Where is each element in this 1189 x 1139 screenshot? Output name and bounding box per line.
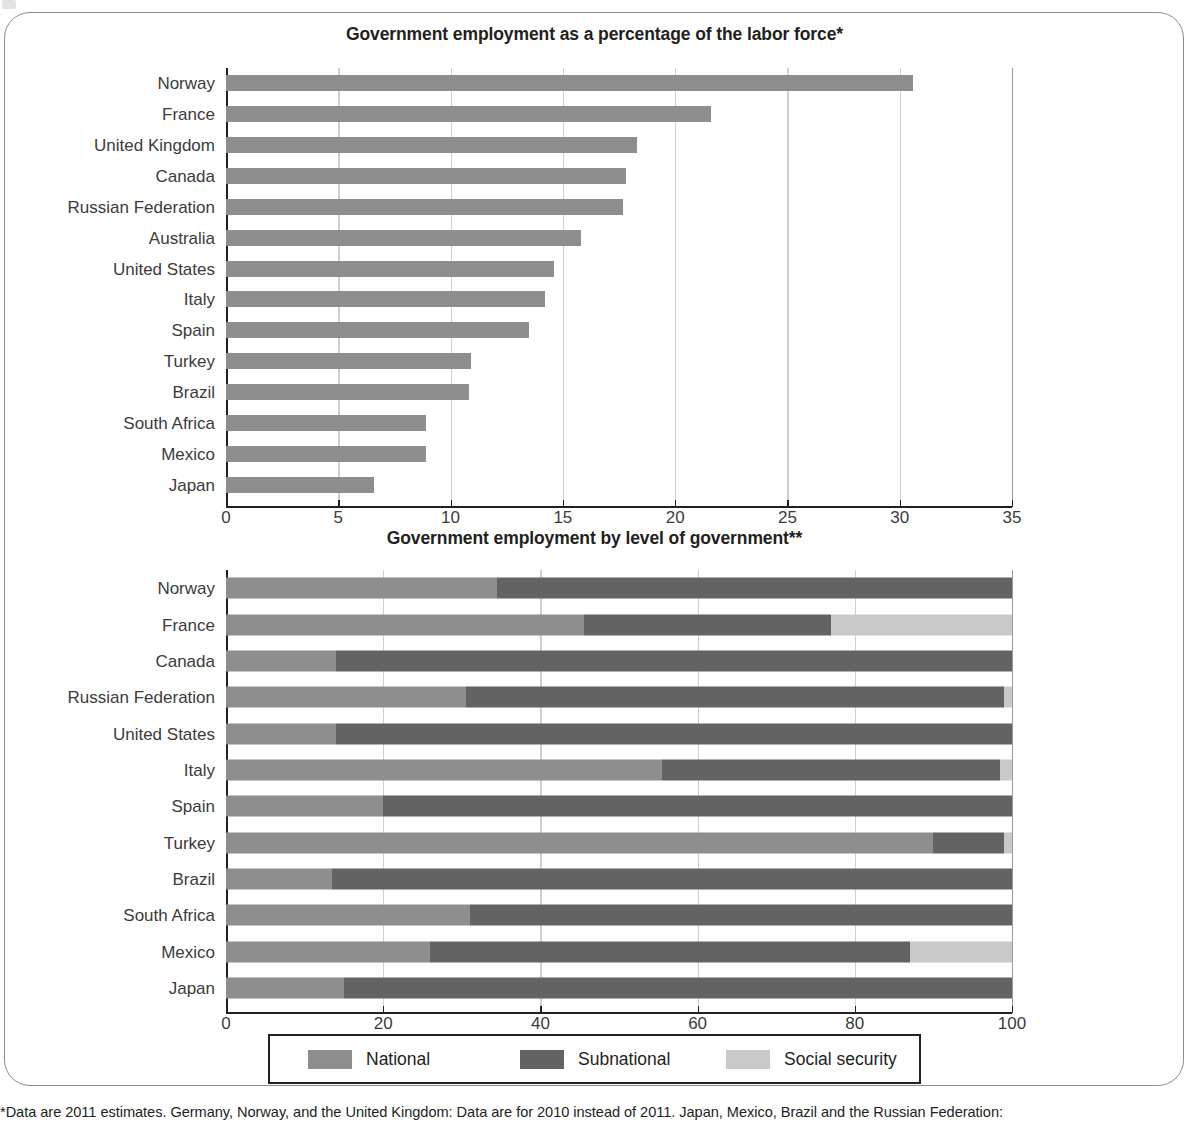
- y-axis-label: Japan: [169, 979, 215, 996]
- legend-item-subnational: Subnational: [520, 1049, 670, 1070]
- legend-label: National: [366, 1049, 430, 1070]
- y-axis-label: Canada: [155, 652, 215, 669]
- x-tick-mark: [1012, 500, 1013, 507]
- bar-segment-national: [226, 868, 332, 889]
- y-axis-label: Brazil: [172, 870, 215, 887]
- x-tick-label: 30: [890, 509, 909, 526]
- y-axis-label: United States: [113, 260, 215, 277]
- y-axis-label: Japan: [169, 476, 215, 493]
- bar-segment-national: [226, 941, 430, 962]
- legend-swatch-subnational: [520, 1050, 564, 1069]
- bar-segment-national: [226, 578, 497, 599]
- x-tick-label: 20: [374, 1015, 393, 1032]
- stacked-bar-row: [226, 650, 1012, 671]
- x-tick-label: 100: [998, 1015, 1026, 1032]
- bar-segment-subnational: [430, 941, 909, 962]
- x-tick-label: 35: [1003, 509, 1022, 526]
- bar-segment-subnational: [344, 977, 1012, 998]
- bar-segment-social-security: [1004, 687, 1012, 708]
- gridline: [451, 68, 452, 500]
- stacked-bar-row: [226, 723, 1012, 744]
- chart-legend: NationalSubnationalSocial security: [268, 1034, 921, 1084]
- bar-segment-subnational: [383, 796, 1012, 817]
- x-tick-label: 0: [221, 1015, 230, 1032]
- chart-2-x-axis: [226, 1012, 1012, 1014]
- bar: [226, 230, 581, 246]
- gridline: [338, 68, 339, 500]
- bar-segment-social-security: [910, 941, 1012, 962]
- x-tick-label: 5: [334, 509, 343, 526]
- legend-item-national: National: [308, 1049, 430, 1070]
- x-tick-label: 10: [441, 509, 460, 526]
- bar-segment-national: [226, 759, 662, 780]
- stacked-bar-row: [226, 796, 1012, 817]
- x-tick-mark: [383, 1006, 384, 1013]
- stacked-bar-row: [226, 614, 1012, 635]
- bar: [226, 446, 426, 462]
- chart-government-employment-by-level: Government employment by level of govern…: [0, 528, 1189, 1018]
- y-axis-label: Spain: [172, 798, 215, 815]
- bar-segment-subnational: [497, 578, 1012, 599]
- y-axis-label: Turkey: [164, 353, 215, 370]
- x-tick-mark: [451, 500, 452, 507]
- stacked-bar-row: [226, 832, 1012, 853]
- gridline: [563, 68, 564, 500]
- x-tick-mark: [226, 1006, 227, 1013]
- legend-label: Social security: [784, 1049, 897, 1070]
- x-tick-label: 25: [778, 509, 797, 526]
- y-axis-label: Canada: [155, 168, 215, 185]
- y-axis-label: Turkey: [164, 834, 215, 851]
- scan-artifact: [2, 0, 16, 9]
- footnote-text: *Data are 2011 estimates. Germany, Norwa…: [0, 1104, 1189, 1120]
- chart-2-title: Government employment by level of govern…: [0, 528, 1189, 549]
- bar-segment-national: [226, 832, 933, 853]
- y-axis-label: United States: [113, 725, 215, 742]
- bar-segment-national: [226, 723, 336, 744]
- stacked-bar-row: [226, 759, 1012, 780]
- x-tick-mark: [226, 500, 227, 507]
- bar-segment-social-security: [1000, 759, 1012, 780]
- bar: [226, 353, 471, 369]
- legend-item-social-security: Social security: [726, 1049, 897, 1070]
- y-axis-label: Norway: [157, 75, 215, 92]
- x-tick-label: 40: [531, 1015, 550, 1032]
- bar: [226, 291, 545, 307]
- stacked-bar-row: [226, 941, 1012, 962]
- bar-segment-subnational: [470, 905, 1012, 926]
- stacked-bar-row: [226, 687, 1012, 708]
- y-axis-label: Brazil: [172, 384, 215, 401]
- bar-segment-subnational: [662, 759, 1000, 780]
- bar-segment-national: [226, 650, 336, 671]
- y-axis-label: Mexico: [161, 943, 215, 960]
- bar-segment-subnational: [584, 614, 832, 635]
- y-axis-label: Russian Federation: [68, 689, 215, 706]
- bar-segment-national: [226, 687, 466, 708]
- bar: [226, 168, 626, 184]
- x-tick-mark: [855, 1006, 856, 1013]
- bar-segment-national: [226, 905, 470, 926]
- y-axis-label: Norway: [157, 580, 215, 597]
- y-axis-label: Mexico: [161, 445, 215, 462]
- bar: [226, 477, 374, 493]
- x-tick-mark: [563, 500, 564, 507]
- bar-segment-national: [226, 977, 344, 998]
- y-axis-label: Australia: [149, 229, 215, 246]
- y-axis-label: Italy: [184, 761, 215, 778]
- x-tick-label: 60: [688, 1015, 707, 1032]
- x-tick-label: 80: [845, 1015, 864, 1032]
- bar-segment-national: [226, 796, 383, 817]
- chart-government-employment-share: Government employment as a percentage of…: [0, 24, 1189, 514]
- x-tick-label: 0: [221, 509, 230, 526]
- bar-segment-subnational: [466, 687, 1004, 708]
- x-tick-mark: [1012, 1006, 1013, 1013]
- y-axis-label: Russian Federation: [68, 198, 215, 215]
- stacked-bar-row: [226, 868, 1012, 889]
- gridline: [675, 68, 676, 500]
- legend-swatch-social-security: [726, 1050, 770, 1069]
- bar: [226, 322, 529, 338]
- y-axis-label: Italy: [184, 291, 215, 308]
- x-tick-mark: [675, 500, 676, 507]
- bar-segment-national: [226, 614, 584, 635]
- x-tick-label: 20: [666, 509, 685, 526]
- x-tick-label: 15: [553, 509, 572, 526]
